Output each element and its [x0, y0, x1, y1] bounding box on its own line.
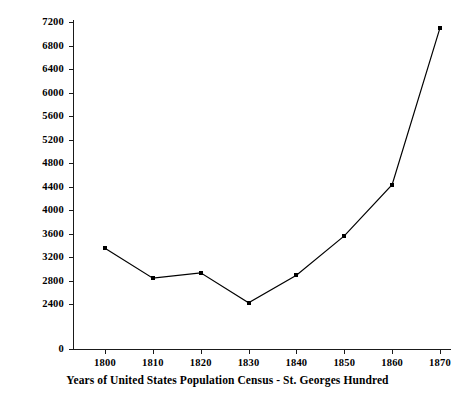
data-point	[342, 234, 346, 238]
x-tick-label: 1870	[410, 358, 455, 369]
y-tick-label: 0	[4, 344, 64, 355]
y-tick-label: 5200	[4, 135, 64, 146]
y-tick-label: 5600	[4, 111, 64, 122]
y-tick-label: 3600	[4, 229, 64, 240]
data-point	[294, 273, 298, 277]
y-tick-label: 2400	[4, 299, 64, 310]
data-point	[438, 26, 442, 30]
data-point	[103, 246, 107, 250]
y-tick-label: 6000	[4, 88, 64, 99]
y-tick-label: 6800	[4, 41, 64, 52]
line-chart: Total Population of St. George's Hundred…	[0, 0, 455, 400]
y-axis-title: Total Population of St. George's Hundred	[0, 0, 24, 340]
x-axis-title: Years of United States Population Census…	[0, 375, 455, 387]
series-line	[73, 20, 451, 350]
y-tick-label: 4000	[4, 205, 64, 216]
y-tick-label: 4800	[4, 158, 64, 169]
data-point	[199, 271, 203, 275]
y-tick-label: 7200	[4, 17, 64, 28]
plot-area: 0240028003200360040004400480052005600600…	[73, 20, 451, 350]
data-point	[247, 301, 251, 305]
y-tick-label: 4400	[4, 182, 64, 193]
y-tick-label: 6400	[4, 64, 64, 75]
y-tick-label: 2800	[4, 276, 64, 287]
data-point	[390, 183, 394, 187]
y-tick-label: 3200	[4, 252, 64, 263]
data-point	[151, 276, 155, 280]
